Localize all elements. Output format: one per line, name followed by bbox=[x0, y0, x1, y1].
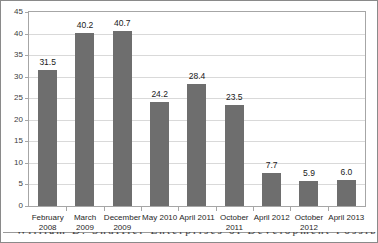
cropped-caption: William D. Shuffler Enterprises of Devel… bbox=[2, 232, 376, 242]
bar-value-label: 6.0 bbox=[334, 168, 358, 177]
bar-column[interactable] bbox=[66, 12, 103, 206]
bar[interactable] bbox=[113, 31, 132, 206]
category-label-line1: May 2010 bbox=[142, 213, 177, 222]
x-axis-tick-mark bbox=[178, 207, 179, 211]
y-axis-tick-label: 10 bbox=[1, 159, 23, 167]
bar-column[interactable] bbox=[216, 12, 253, 206]
y-axis-tick-label: 25 bbox=[1, 94, 23, 102]
plot-area: 31.540.240.724.228.423.57.75.96.0 bbox=[28, 11, 366, 207]
category-label-line1: February bbox=[32, 213, 64, 222]
x-axis-tick-mark bbox=[141, 207, 142, 211]
bar-value-label: 40.7 bbox=[110, 19, 134, 28]
category-label-line1: April 2013 bbox=[328, 213, 364, 222]
bar[interactable] bbox=[337, 180, 356, 206]
bar[interactable] bbox=[299, 181, 318, 206]
chart-image: 454035302520151050 31.540.240.724.228.42… bbox=[0, 0, 378, 243]
bar-value-label: 28.4 bbox=[185, 72, 209, 81]
x-axis-category-label: April 2013 bbox=[324, 213, 369, 223]
category-label-line2: 2012 bbox=[286, 223, 331, 233]
bar-value-label: 5.9 bbox=[297, 169, 321, 178]
y-axis-tick-label: 15 bbox=[1, 137, 23, 145]
bar-column[interactable] bbox=[29, 12, 66, 206]
bar[interactable] bbox=[262, 173, 281, 206]
x-axis-tick-mark bbox=[290, 207, 291, 211]
caption-text: William D. Shuffler Enterprises of Devel… bbox=[16, 232, 376, 236]
category-label-line1: April 2011 bbox=[179, 213, 214, 222]
category-label-line1: October bbox=[295, 213, 323, 222]
category-label-line2: 2011 bbox=[212, 223, 257, 233]
category-label-line1: April 2012 bbox=[254, 213, 290, 222]
bar-column[interactable] bbox=[104, 12, 141, 206]
y-axis-tick-label: 20 bbox=[1, 116, 23, 124]
x-axis-tick-mark bbox=[66, 207, 67, 211]
category-label-line1: December bbox=[104, 213, 141, 222]
y-axis-tick-label: 0 bbox=[1, 202, 23, 210]
bar-value-label: 24.2 bbox=[148, 90, 172, 99]
y-axis-tick-label: 45 bbox=[1, 8, 23, 16]
bar-column[interactable] bbox=[141, 12, 178, 206]
category-label-line2: 2009 bbox=[100, 223, 145, 233]
bar-value-label: 23.5 bbox=[222, 93, 246, 102]
y-axis-tick-label: 35 bbox=[1, 51, 23, 59]
bar[interactable] bbox=[75, 33, 94, 206]
x-axis-tick-mark bbox=[104, 207, 105, 211]
x-axis-tick-mark bbox=[253, 207, 254, 211]
bar-value-label: 31.5 bbox=[36, 58, 60, 67]
y-axis-tick-label: 5 bbox=[1, 180, 23, 188]
bar[interactable] bbox=[38, 70, 57, 206]
bar-value-label: 40.2 bbox=[73, 21, 97, 30]
bar-column[interactable] bbox=[253, 12, 290, 206]
bar-column[interactable] bbox=[178, 12, 215, 206]
category-label-line1: October bbox=[220, 213, 248, 222]
x-axis-tick-mark bbox=[328, 207, 329, 211]
bar-value-label: 7.7 bbox=[260, 161, 284, 170]
x-axis-tick-mark bbox=[216, 207, 217, 211]
bar[interactable] bbox=[187, 84, 206, 206]
bar[interactable] bbox=[225, 105, 244, 206]
y-axis-tick-label: 30 bbox=[1, 73, 23, 81]
y-axis-tick-label: 40 bbox=[1, 30, 23, 38]
bar[interactable] bbox=[150, 102, 169, 206]
category-label-line1: March bbox=[74, 213, 96, 222]
bar-chart: 454035302520151050 31.540.240.724.228.42… bbox=[1, 1, 377, 222]
